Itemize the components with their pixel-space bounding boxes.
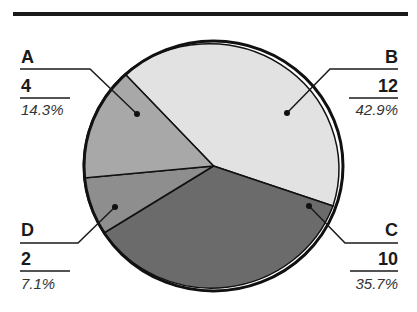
label-a-pct: 14.3% — [21, 101, 64, 118]
top-rule — [13, 12, 408, 16]
pie-wedges — [83, 41, 343, 291]
label-a-name: A — [21, 47, 34, 67]
label-b-name: B — [385, 47, 398, 67]
anchor-dot-d — [112, 204, 118, 210]
label-d-pct: 7.1% — [21, 275, 55, 292]
label-b-value: 12 — [378, 76, 398, 96]
label-c-pct: 35.7% — [355, 275, 398, 292]
label-b-pct: 42.9% — [355, 101, 398, 118]
callout-c: C 10 35.7% — [306, 203, 398, 292]
anchor-dot-c — [306, 203, 312, 209]
pie-chart: A 4 14.3% B 12 42.9% C 10 35.7% D 2 7.1% — [0, 0, 417, 312]
anchor-dot-b — [284, 110, 290, 116]
label-d-value: 2 — [21, 249, 31, 269]
label-c-value: 10 — [378, 249, 398, 269]
label-c-name: C — [385, 220, 398, 240]
label-d-name: D — [21, 220, 34, 240]
label-a-value: 4 — [21, 76, 31, 96]
anchor-dot-a — [134, 111, 140, 117]
